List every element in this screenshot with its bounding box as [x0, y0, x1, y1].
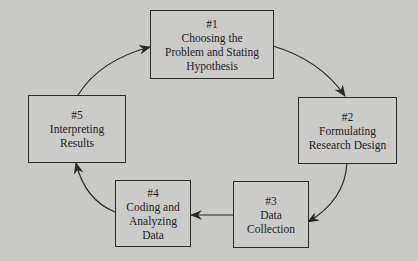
- arrow-4-to-5: [76, 163, 115, 212]
- step-3-box: #3 Data Collection: [233, 181, 309, 248]
- step-label: Formulating: [319, 124, 376, 138]
- step-label: Hypothesis: [186, 59, 238, 73]
- step-1-box: #1 Choosing the Problem and Stating Hypo…: [150, 10, 274, 79]
- step-number: #2: [342, 110, 354, 124]
- step-number: #4: [147, 186, 159, 200]
- step-label: Coding and: [126, 200, 179, 214]
- step-label: Choosing the: [181, 31, 242, 45]
- step-5-box: #5 Interpreting Results: [28, 95, 126, 163]
- step-label: Collection: [247, 222, 295, 236]
- step-label: Results: [60, 136, 94, 150]
- step-label: Interpreting: [50, 122, 104, 136]
- arrow-2-to-3: [308, 163, 347, 222]
- step-label: Problem and Stating: [165, 45, 259, 59]
- step-number: #5: [71, 108, 83, 122]
- step-4-box: #4 Coding and Analyzing Data: [115, 180, 191, 247]
- step-label: Analyzing: [129, 214, 177, 228]
- step-number: #1: [206, 17, 218, 31]
- arrow-5-to-1: [78, 47, 150, 95]
- step-2-box: #2 Formulating Research Design: [298, 97, 397, 164]
- arrow-1-to-2: [273, 46, 345, 96]
- step-label: Data: [260, 208, 282, 222]
- step-number: #3: [265, 194, 277, 208]
- step-label: Research Design: [309, 138, 387, 152]
- step-label: Data: [142, 228, 164, 242]
